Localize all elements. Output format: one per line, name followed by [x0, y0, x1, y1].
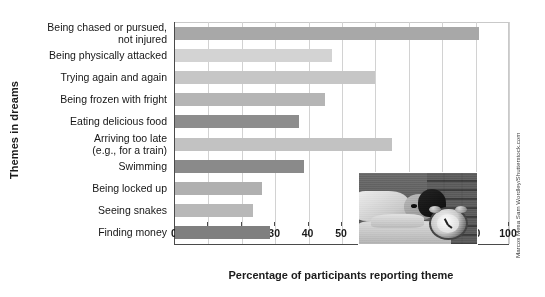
bar-row — [175, 66, 509, 88]
category-label: Arriving too late (e.g., for a train) — [30, 133, 172, 156]
photo-credit: Marcos Mesa Sam Wordley/Shutterstock.com — [514, 108, 524, 258]
x-axis-tick — [174, 222, 175, 226]
bar-row — [175, 22, 509, 44]
category-label: Eating delicious food — [30, 111, 172, 133]
photo-grayscale-overlay — [359, 173, 477, 244]
bar — [175, 93, 325, 106]
bar — [175, 71, 375, 84]
x-axis-tick — [508, 222, 509, 226]
category-label: Being locked up — [30, 178, 172, 200]
bar-row — [175, 111, 509, 133]
x-axis-title: Percentage of participants reporting the… — [174, 269, 508, 281]
gridline — [509, 22, 510, 244]
bar — [175, 182, 262, 195]
x-axis-tick — [308, 222, 309, 226]
bar-chart-figure: Themes in dreams Being chased or pursued… — [0, 0, 545, 297]
bar — [175, 160, 304, 173]
category-label: Being frozen with fright — [30, 89, 172, 111]
sleeping-person-with-alarm-clock-photo — [358, 172, 478, 245]
bar-row — [175, 89, 509, 111]
category-label: Finding money — [30, 222, 172, 244]
category-label-column: Being chased or pursued, not injuredBein… — [30, 22, 172, 244]
bar — [175, 226, 270, 239]
bar-row — [175, 133, 509, 155]
bar-row — [175, 44, 509, 66]
x-axis-tick — [241, 222, 242, 226]
category-label: Being chased or pursued, not injured — [30, 22, 172, 45]
x-axis-tick — [274, 222, 275, 226]
bar — [175, 115, 299, 128]
category-label: Being physically attacked — [30, 45, 172, 67]
bar — [175, 204, 253, 217]
bar — [175, 49, 332, 62]
y-axis-title: Themes in dreams — [8, 50, 22, 210]
x-axis-tick — [341, 222, 342, 226]
category-label: Swimming — [30, 156, 172, 178]
x-axis-tick — [207, 222, 208, 226]
bar — [175, 138, 392, 151]
category-label: Trying again and again — [30, 67, 172, 89]
category-label: Seeing snakes — [30, 200, 172, 222]
bar — [175, 27, 479, 40]
